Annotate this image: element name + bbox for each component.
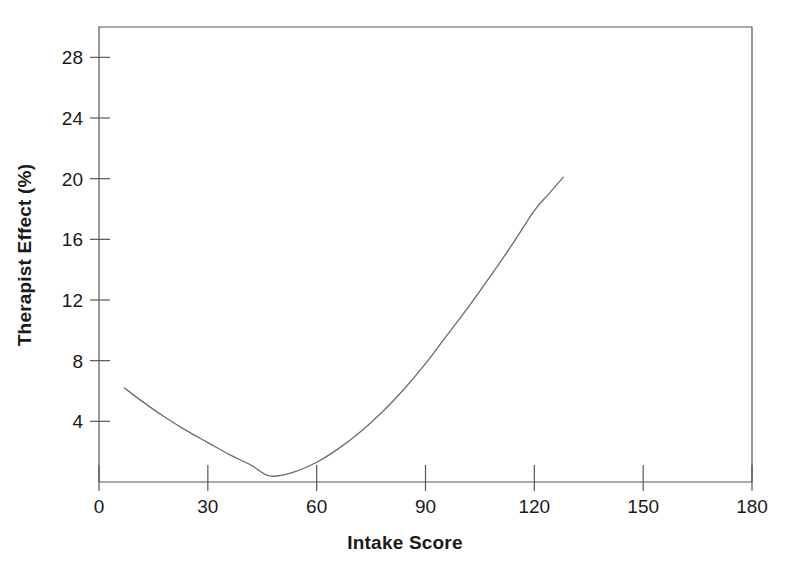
x-tick-label: 60	[306, 496, 327, 517]
x-tick-label: 180	[736, 496, 768, 517]
x-tick-label: 90	[415, 496, 436, 517]
x-tick-label: 150	[627, 496, 659, 517]
x-axis-ticks: 0306090120150180	[94, 465, 768, 517]
y-tick-label: 24	[62, 108, 84, 129]
chart-canvas: 481216202428 0306090120150180 Intake Sco…	[0, 0, 802, 571]
plot-frame	[99, 27, 752, 482]
chart-figure: 481216202428 0306090120150180 Intake Sco…	[0, 0, 802, 571]
y-axis-ticks: 481216202428	[62, 47, 110, 432]
x-tick-label: 30	[197, 496, 218, 517]
y-tick-label: 20	[62, 169, 83, 190]
y-tick-label: 8	[72, 351, 83, 372]
data-series-group	[124, 177, 563, 476]
x-tick-label: 0	[94, 496, 105, 517]
x-axis-title: Intake Score	[347, 532, 462, 553]
x-tick-label: 120	[518, 496, 550, 517]
y-tick-label: 4	[72, 411, 83, 432]
y-axis-title: Therapist Effect (%)	[14, 164, 35, 346]
y-tick-label: 28	[62, 47, 83, 68]
data-curve-therapist-effect	[124, 177, 563, 476]
plot-frame-path	[99, 27, 752, 482]
y-tick-label: 12	[62, 290, 83, 311]
y-tick-label: 16	[62, 229, 83, 250]
